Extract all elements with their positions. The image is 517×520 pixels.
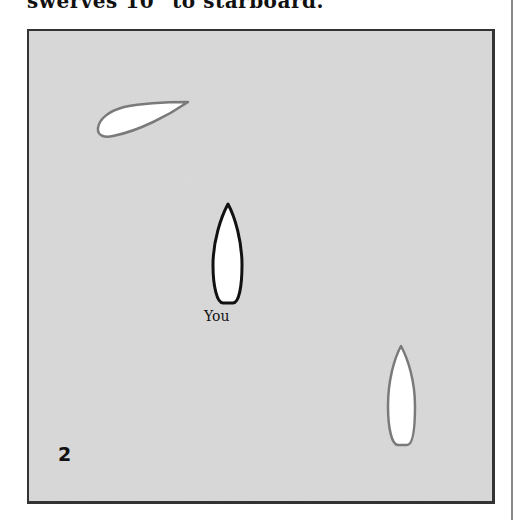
page-edge-divider xyxy=(511,0,513,520)
scene-number: 2 xyxy=(58,443,71,465)
scene-panel: You 2 xyxy=(27,29,495,504)
own-boat-label: You xyxy=(204,308,229,324)
caption-text: swerves 10° to starboard. xyxy=(27,0,324,13)
scene-canvas xyxy=(29,31,492,501)
